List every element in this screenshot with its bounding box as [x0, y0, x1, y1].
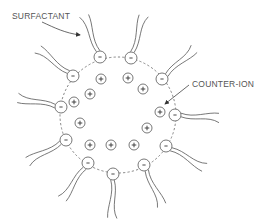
counter-ions — [69, 73, 165, 150]
counter-ion-arrow — [165, 85, 189, 104]
counter-ion — [142, 123, 152, 133]
surfactant-head — [82, 157, 94, 169]
surfactant-tail — [89, 14, 100, 50]
surfactant-tail — [131, 15, 140, 52]
counter-ion — [123, 73, 133, 83]
surfactant-head — [67, 70, 79, 82]
counter-ion-label: COUNTER-ION — [192, 79, 254, 89]
surfactant-tail — [30, 144, 62, 166]
counter-ion — [96, 74, 106, 84]
counter-ion — [75, 118, 85, 128]
surfactant-tail — [80, 17, 97, 52]
surfactant-tail — [168, 52, 197, 76]
counter-ion — [129, 140, 139, 150]
counter-ion — [138, 84, 148, 94]
micelle-diagram: SURFACTANT COUNTER-ION — [0, 0, 266, 222]
counter-ion — [155, 107, 165, 117]
surfactant-tail — [41, 46, 70, 71]
surfactant-head — [156, 73, 168, 85]
surfactant-tail — [108, 180, 112, 218]
micelle-illustration — [0, 0, 266, 222]
counter-ion — [106, 140, 116, 150]
surfactant-tail — [58, 167, 83, 196]
surfactant-tail — [145, 171, 157, 207]
surfactant-head — [169, 109, 181, 121]
counter-ion — [85, 140, 95, 150]
surfactant-tail — [181, 113, 219, 115]
surfactant-label: SURFACTANT — [12, 11, 70, 21]
surfactant-tail — [17, 103, 55, 108]
surfactant-head — [160, 140, 172, 152]
surfactant-tail — [172, 148, 207, 164]
surfactant-head — [125, 52, 137, 64]
surfactant-tails — [17, 14, 219, 218]
counter-ion — [69, 97, 79, 107]
surfactant-head — [94, 51, 106, 63]
counter-ion — [85, 89, 95, 99]
surfactant-head — [60, 134, 72, 146]
surfactant-head — [107, 168, 119, 180]
surfactant-tail — [181, 117, 219, 123]
surfactant-head — [138, 159, 150, 171]
surfactant-head — [55, 101, 67, 113]
surfactant-arrow — [42, 22, 80, 35]
surfactant-tail — [114, 180, 117, 218]
surfactant-tail — [18, 93, 55, 104]
